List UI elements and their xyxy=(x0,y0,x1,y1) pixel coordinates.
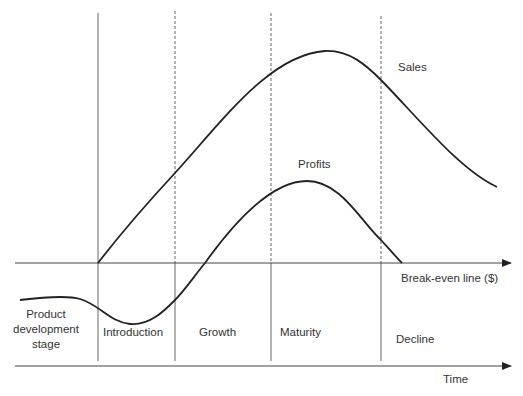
profits-label: Profits xyxy=(298,157,331,172)
stage-growth-label: Growth xyxy=(199,325,236,340)
sales-label: Sales xyxy=(398,60,427,75)
stage-decline-label: Decline xyxy=(396,332,434,347)
profits-curve xyxy=(20,181,402,324)
stage-product-development-line-3: stage xyxy=(6,337,86,352)
break-even-label: Break-even line ($) xyxy=(401,271,498,286)
stage-introduction-label: Introduction xyxy=(103,325,163,340)
stage-product-development-line-1: Product xyxy=(6,307,86,322)
stage-product-development-line-2: development xyxy=(6,322,86,337)
stage-maturity-label: Maturity xyxy=(280,325,321,340)
time-axis-label: Time xyxy=(443,372,468,387)
stage-product-development-label: Product development stage xyxy=(6,307,86,352)
